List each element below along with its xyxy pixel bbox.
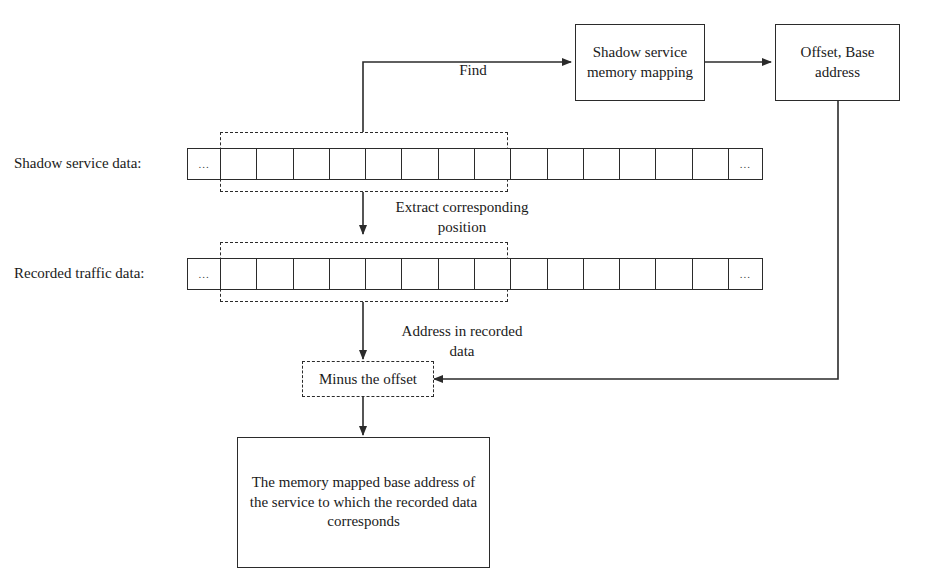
memory-cell[interactable] xyxy=(548,149,584,179)
memory-cell[interactable]: ... xyxy=(188,259,221,289)
memory-cell[interactable] xyxy=(402,149,438,179)
edge-label-find: Find xyxy=(433,61,513,81)
memory-cell[interactable] xyxy=(257,149,293,179)
memory-cell[interactable] xyxy=(294,149,330,179)
diagram-canvas: Shadow service memory mapping Offset, Ba… xyxy=(0,0,925,588)
box-offset-base-address-label: Offset, Base address xyxy=(776,43,899,83)
memory-cell[interactable] xyxy=(221,149,257,179)
box-offset-base-address[interactable]: Offset, Base address xyxy=(775,24,900,101)
row-label-recorded-traffic-data: Recorded traffic data: xyxy=(14,265,145,282)
box-shadow-service-memory-mapping[interactable]: Shadow service memory mapping xyxy=(575,24,705,101)
memory-cell[interactable] xyxy=(330,259,366,289)
box-minus-the-offset[interactable]: Minus the offset xyxy=(302,361,434,397)
row-label-shadow-service-data: Shadow service data: xyxy=(14,155,141,172)
memory-cell[interactable] xyxy=(366,259,402,289)
memory-cell[interactable] xyxy=(511,259,547,289)
memory-cell[interactable] xyxy=(693,259,729,289)
box-result[interactable]: The memory mapped base address of the se… xyxy=(237,437,490,568)
memory-cell[interactable] xyxy=(656,259,692,289)
memory-cell[interactable]: ... xyxy=(188,149,221,179)
box-result-label: The memory mapped base address of the se… xyxy=(238,473,489,532)
memory-cell[interactable] xyxy=(402,259,438,289)
memory-cell[interactable] xyxy=(439,149,475,179)
memory-cell[interactable] xyxy=(511,149,547,179)
box-minus-the-offset-label: Minus the offset xyxy=(313,371,423,388)
memory-cell[interactable] xyxy=(475,259,511,289)
memory-cell[interactable]: ... xyxy=(729,259,762,289)
cell-row-recorded-traffic-data[interactable]: ...... xyxy=(187,258,763,290)
cell-row-shadow-service-data[interactable]: ...... xyxy=(187,148,763,180)
memory-cell[interactable] xyxy=(439,259,475,289)
memory-cell[interactable] xyxy=(620,149,656,179)
memory-cell[interactable] xyxy=(475,149,511,179)
memory-cell[interactable] xyxy=(548,259,584,289)
memory-cell[interactable] xyxy=(257,259,293,289)
edge-label-address-in-recorded-data: Address in recorded data xyxy=(372,322,552,361)
edge-label-extract-corresponding-position: Extract corresponding position xyxy=(372,198,552,237)
memory-cell[interactable] xyxy=(656,149,692,179)
memory-cell[interactable]: ... xyxy=(729,149,762,179)
memory-cell[interactable] xyxy=(620,259,656,289)
memory-cell[interactable] xyxy=(294,259,330,289)
box-shadow-service-memory-mapping-label: Shadow service memory mapping xyxy=(576,43,704,83)
memory-cell[interactable] xyxy=(693,149,729,179)
memory-cell[interactable] xyxy=(584,259,620,289)
memory-cell[interactable] xyxy=(221,259,257,289)
memory-cell[interactable] xyxy=(330,149,366,179)
memory-cell[interactable] xyxy=(366,149,402,179)
memory-cell[interactable] xyxy=(584,149,620,179)
